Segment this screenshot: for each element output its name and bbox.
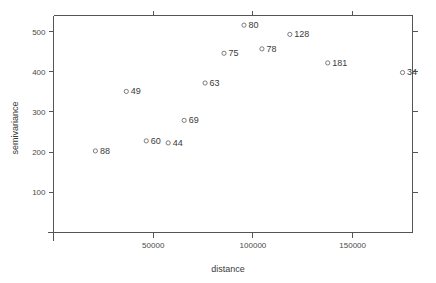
y-axis-title: semivariance xyxy=(10,101,20,154)
point-count-label: 44 xyxy=(173,138,183,148)
point-marker-circle xyxy=(203,81,207,85)
axis-ticks xyxy=(49,11,418,238)
x-tick-label: 100000 xyxy=(240,241,267,250)
data-point: 181 xyxy=(326,58,348,68)
point-marker-circle xyxy=(326,61,330,65)
point-marker-circle xyxy=(93,149,97,153)
y-tick-label: 200 xyxy=(32,148,46,157)
data-point: 78 xyxy=(260,44,277,54)
data-point: 63 xyxy=(203,78,220,88)
y-tick-label: 400 xyxy=(32,68,46,77)
y-tick-label: 500 xyxy=(32,28,46,37)
y-tick-label: 300 xyxy=(32,108,46,117)
variogram-plot: 10020030040050050000100000150000 8849604… xyxy=(0,0,436,283)
data-point: 60 xyxy=(144,136,161,146)
x-axis-title: distance xyxy=(211,264,245,274)
x-tick-label: 150000 xyxy=(339,241,366,250)
point-marker-circle xyxy=(144,139,148,143)
data-point: 128 xyxy=(288,29,310,39)
point-count-label: 60 xyxy=(151,136,161,146)
data-point: 49 xyxy=(124,86,141,96)
point-count-label: 88 xyxy=(100,146,110,156)
point-count-label: 34 xyxy=(407,67,417,77)
point-count-label: 63 xyxy=(210,78,220,88)
point-count-label: 181 xyxy=(332,58,347,68)
point-marker-circle xyxy=(182,118,186,122)
point-count-label: 75 xyxy=(229,48,239,58)
x-tick-label: 50000 xyxy=(142,241,165,250)
point-marker-circle xyxy=(222,51,226,55)
point-marker-circle xyxy=(260,47,264,51)
point-marker-circle xyxy=(400,70,404,74)
point-count-label: 80 xyxy=(248,20,258,30)
point-marker-circle xyxy=(242,23,246,27)
y-tick-label: 100 xyxy=(32,188,46,197)
plot-canvas: 10020030040050050000100000150000 8849604… xyxy=(0,0,436,283)
point-count-label: 78 xyxy=(266,44,276,54)
point-marker-circle xyxy=(288,32,292,36)
data-point: 75 xyxy=(222,48,239,58)
data-point: 80 xyxy=(242,20,259,30)
data-point: 44 xyxy=(166,138,183,148)
point-marker-circle xyxy=(124,89,128,93)
point-marker-circle xyxy=(166,141,170,145)
data-points: 88496044696375807812818134 xyxy=(93,20,417,156)
point-count-label: 69 xyxy=(189,115,199,125)
point-count-label: 49 xyxy=(131,86,141,96)
data-point: 69 xyxy=(182,115,199,125)
point-count-label: 128 xyxy=(294,29,309,39)
axis-tick-labels: 10020030040050050000100000150000 xyxy=(32,28,366,250)
data-point: 88 xyxy=(93,146,110,156)
data-point: 34 xyxy=(400,67,417,77)
